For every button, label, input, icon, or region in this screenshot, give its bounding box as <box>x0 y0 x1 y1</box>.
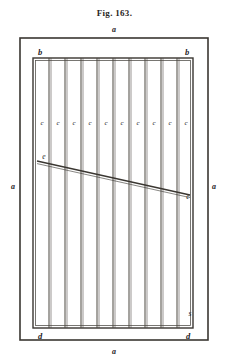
label-e-left: e <box>42 153 45 161</box>
label-c-8: c <box>152 120 155 127</box>
label-b-left: b <box>38 48 42 57</box>
label-c-2: c <box>56 120 59 127</box>
label-c-3: c <box>72 120 75 127</box>
outer-wall-rectangle <box>20 38 208 340</box>
label-a-right: a <box>212 183 216 191</box>
label-d-right: d <box>186 332 190 341</box>
label-c-7: c <box>136 120 139 127</box>
label-c-10: c <box>184 120 187 127</box>
label-c-4: c <box>88 120 91 127</box>
label-a-bottom: a <box>112 348 116 356</box>
label-b-right: b <box>185 48 189 57</box>
label-a-top: a <box>112 26 116 34</box>
outer-frame-group <box>20 38 208 340</box>
label-s-mark: s <box>189 310 192 318</box>
figure-page: Fig. 163. aaaabbddccccccccccees <box>0 0 229 364</box>
figure-caption: Fig. 163. <box>0 8 229 18</box>
figure-drawing-svg <box>0 20 229 364</box>
engraving-plate: aaaabbddccccccccccees <box>0 20 229 364</box>
label-c-1: c <box>40 120 43 127</box>
label-c-5: c <box>104 120 107 127</box>
label-a-left: a <box>11 183 15 191</box>
label-c-6: c <box>120 120 123 127</box>
vertical-bars-group <box>49 58 179 328</box>
label-d-left: d <box>38 332 42 341</box>
label-e-right: e <box>186 193 189 201</box>
label-c-9: c <box>168 120 171 127</box>
